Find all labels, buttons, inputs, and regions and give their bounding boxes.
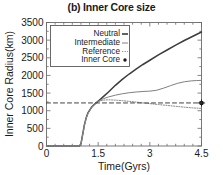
- y-axis-tick-labels: 0500100015002000250030003500: [21, 17, 44, 152]
- y-tick-label: 1000: [21, 105, 44, 116]
- inner-core-size-plot: 01.534.5 0500100015002000250030003500 Ti…: [0, 0, 223, 175]
- y-tick-label: 2000: [21, 70, 44, 81]
- chart-legend: NeutralIntermediateReferenceInner Core: [51, 26, 130, 67]
- y-tick-label: 3500: [21, 17, 44, 28]
- x-tick-label: 0: [44, 148, 50, 159]
- x-tick-label: 1.5: [91, 148, 105, 159]
- x-tick-label: 3: [147, 148, 153, 159]
- x-tick-label: 4.5: [195, 148, 209, 159]
- y-tick-label: 2500: [21, 52, 44, 63]
- series-line-intermediate: [47, 80, 202, 146]
- series-line-reference: [47, 100, 202, 146]
- x-axis-tick-labels: 01.534.5: [44, 148, 209, 159]
- legend-swatch-marker: [123, 58, 126, 61]
- y-axis-title: Inner Core Radius(km): [3, 31, 15, 137]
- y-tick-label: 0: [38, 141, 44, 152]
- x-axis-title: Time(Gyrs): [98, 160, 150, 172]
- y-tick-label: 3000: [21, 35, 44, 46]
- y-tick-label: 1500: [21, 88, 44, 99]
- legend-label-inner-core: Inner Core: [81, 55, 120, 64]
- y-tick-label: 500: [27, 123, 44, 134]
- legend-label-neutral: Neutral: [94, 29, 121, 38]
- chart-figure: (b) Inner Core size 01.534.5 05001000150…: [0, 0, 223, 175]
